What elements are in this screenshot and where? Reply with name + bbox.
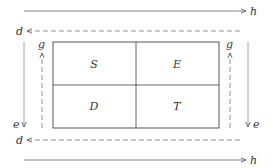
left-e-arrow: e [13,42,24,131]
right-e-arrow: e [248,42,260,131]
bottom-d-label: d [16,134,23,147]
cell-t: T [173,100,182,113]
left-g-arrow: g [38,38,45,128]
left-e-label: e [13,118,20,131]
cell-s: S [90,58,98,71]
cell-d: D [89,100,99,113]
diagram-canvas: h d e g g e S E D T d h [0,0,273,168]
bottom-d-arrow: d [16,134,240,147]
cell-e: E [172,58,181,71]
right-e-label: e [253,118,260,131]
bottom-h-arrow: h [24,154,257,167]
top-h-label: h [250,5,257,18]
top-h-arrow: h [24,5,257,18]
right-g-arrow: g [226,38,233,128]
bottom-h-label: h [250,154,257,167]
right-g-label: g [226,38,233,51]
top-d-label: d [16,25,23,38]
top-d-arrow: d [16,25,240,38]
state-grid: S E D T [53,42,219,128]
left-g-label: g [38,38,45,51]
